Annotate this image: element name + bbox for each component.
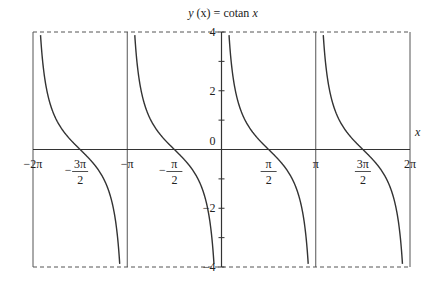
x-tick-label-den: 2 [77, 173, 83, 187]
y-tick-label: 2 [210, 84, 216, 98]
x-tick-label-num: π [171, 157, 177, 171]
x-tick-label: −2π [24, 157, 43, 171]
x-tick-label-num: 3π [357, 157, 369, 171]
x-tick-label-sign: − [65, 163, 72, 177]
x-tick-label: −π [121, 157, 134, 171]
x-tick-label-den: 2 [360, 173, 366, 187]
x-tick-label: 2π [404, 157, 416, 171]
x-tick-label-num: 3π [74, 157, 86, 171]
x-tick-label-sign: − [159, 163, 166, 177]
x-tick-label-num: π [266, 157, 272, 171]
plot-area: −2π−3π2−π−π2π2π3π22π420−2−4x [0, 0, 446, 290]
y-tick-label: 0 [210, 134, 216, 148]
x-tick-label: π [313, 157, 319, 171]
x-tick-label-den: 2 [266, 173, 272, 187]
y-tick-label: 4 [210, 25, 216, 39]
x-tick-label-den: 2 [171, 173, 177, 187]
axes [33, 32, 410, 267]
y-tick-label: −2 [203, 201, 216, 215]
y-tick-label: −4 [203, 260, 216, 274]
x-axis-label: x [414, 125, 421, 139]
